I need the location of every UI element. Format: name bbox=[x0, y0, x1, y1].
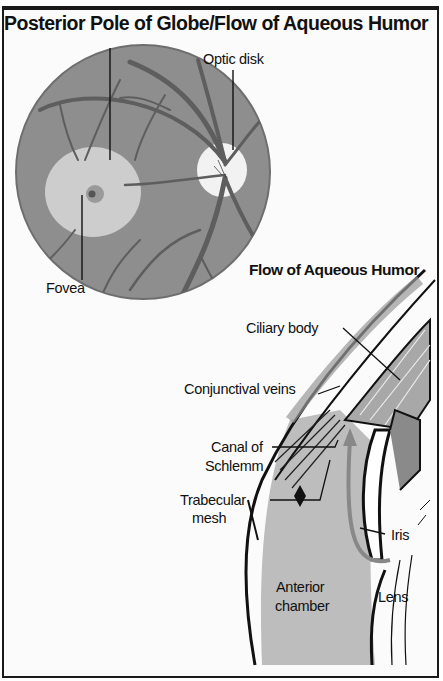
label-anterior: Anterior bbox=[276, 578, 324, 596]
label-canal-of: Canal of bbox=[211, 438, 263, 456]
label-iris: Iris bbox=[391, 526, 409, 544]
aqueous-flow-illustration bbox=[0, 0, 443, 681]
label-trabecular: Trabecular bbox=[180, 491, 246, 509]
label-schlemm: Schlemm bbox=[205, 457, 263, 475]
label-mesh: mesh bbox=[192, 509, 226, 527]
label-ciliary-body: Ciliary body bbox=[246, 319, 318, 337]
label-chamber: chamber bbox=[275, 597, 329, 615]
label-lens: Lens bbox=[378, 588, 408, 606]
label-conjunctival-veins: Conjunctival veins bbox=[184, 380, 295, 398]
subtitle-flow-of-aqueous-humor: Flow of Aqueous Humor bbox=[249, 261, 419, 279]
